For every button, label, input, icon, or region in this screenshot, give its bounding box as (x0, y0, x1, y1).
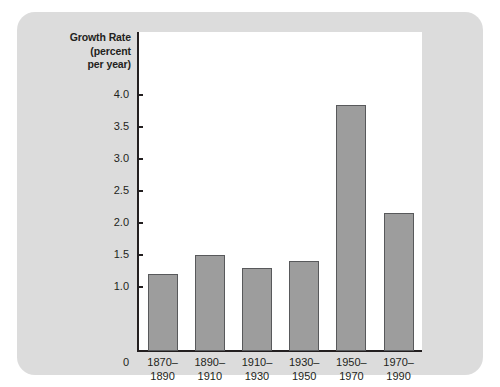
y-axis-title: Growth Rate (percent per year) (25, 31, 131, 72)
x-axis-tick-label: 1970–1990 (368, 356, 430, 383)
y-axis-tick (137, 190, 143, 192)
x-axis-tick-label-line: 1990 (368, 370, 430, 384)
y-axis-tick (137, 126, 143, 128)
bar (336, 105, 366, 351)
y-axis-tick-label: 3.5 (67, 121, 129, 132)
bar (148, 274, 178, 351)
y-axis-title-line-1: Growth Rate (25, 31, 131, 45)
bar (195, 255, 225, 351)
y-axis-tick (137, 158, 143, 160)
y-axis-tick-label: 2.5 (67, 185, 129, 196)
y-axis-tick (137, 222, 143, 224)
y-axis-title-line-2: (percent (25, 45, 131, 59)
y-axis-title-line-3: per year) (25, 58, 131, 72)
x-axis-tick-label-line: 1970– (368, 356, 430, 370)
x-axis-line (137, 350, 422, 352)
bar (242, 268, 272, 351)
y-axis-line (137, 32, 139, 352)
bar (384, 213, 414, 351)
y-axis-tick (137, 286, 143, 288)
y-axis-zero-label: 0 (67, 357, 129, 368)
y-axis-tick (137, 94, 143, 96)
y-axis-tick-label: 2.0 (67, 217, 129, 228)
y-axis-tick-label: 3.0 (67, 153, 129, 164)
bar (289, 261, 319, 351)
y-axis-tick-label: 4.0 (67, 89, 129, 100)
y-axis-tick (137, 254, 143, 256)
y-axis-tick-label: 1.0 (67, 281, 129, 292)
plot-area (137, 32, 422, 352)
y-axis-tick-label: 1.5 (67, 249, 129, 260)
figure-card: Growth Rate (percent per year) 1.01.52.0… (17, 12, 483, 375)
